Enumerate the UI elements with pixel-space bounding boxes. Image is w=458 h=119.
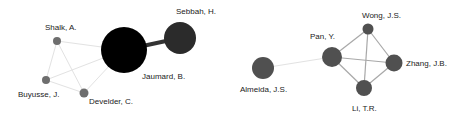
node-pan[interactable] <box>322 47 342 67</box>
node-label-pan: Pan, Y. <box>310 32 335 41</box>
coauthorship-network-diagram: Shalk, A.Buyusse, J.Develder, C.Jaumard,… <box>0 0 458 119</box>
node-almeida[interactable] <box>252 57 274 79</box>
node-label-li: Li, T.R. <box>352 104 377 113</box>
node-sebbah[interactable] <box>164 22 196 54</box>
node-label-sebbah: Sebbah, H. <box>176 7 216 16</box>
node-li[interactable] <box>356 80 372 96</box>
edges-layer <box>46 29 394 93</box>
node-shalk[interactable] <box>53 37 61 45</box>
node-wong[interactable] <box>363 24 374 35</box>
node-label-buyusse: Buyusse, J. <box>18 90 59 99</box>
node-zhang[interactable] <box>386 55 403 72</box>
node-label-shalk: Shalk, A. <box>45 23 77 32</box>
edge-shalk-buyusse <box>46 41 57 80</box>
node-label-develder: Develder, C. <box>89 97 133 106</box>
node-label-zhang: Zhang, J.B. <box>406 59 447 68</box>
node-develder[interactable] <box>80 89 89 98</box>
node-label-jaumard: Jaumard, B. <box>142 72 185 81</box>
node-label-almeida: Almeida, J.S. <box>240 85 287 94</box>
edge-wong-li <box>364 29 368 88</box>
node-label-wong: Wong, J.S. <box>362 11 401 20</box>
node-buyusse[interactable] <box>42 76 50 84</box>
node-jaumard[interactable] <box>101 27 147 73</box>
nodes-layer <box>42 22 403 98</box>
